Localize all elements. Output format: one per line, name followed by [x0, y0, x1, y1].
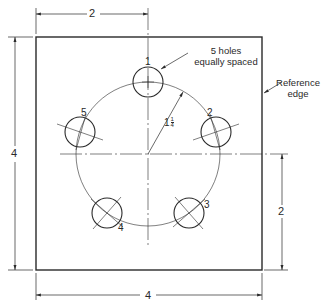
top-dimension-label: 2 — [89, 8, 95, 19]
right-dimension — [264, 154, 288, 270]
holes-note-line2: equally spaced — [186, 57, 266, 68]
radius-whole: 1 — [164, 117, 170, 128]
hole-2-label: 2 — [207, 108, 213, 118]
bolt-circle-radius-label: 114 — [164, 117, 174, 129]
reference-edge-line2: edge — [270, 89, 324, 100]
right-dimension-label: 2 — [278, 206, 284, 217]
holes-note-leader — [161, 53, 188, 69]
hole-1-label: 1 — [145, 57, 151, 67]
hole-3-label: 3 — [204, 200, 210, 210]
hole-3 — [173, 197, 205, 229]
hole-5-label: 5 — [81, 108, 87, 118]
holes-note: 5 holes equally spaced — [186, 46, 266, 68]
left-dimension-label: 4 — [11, 148, 17, 159]
hole-5 — [57, 114, 103, 150]
bottom-dimension-label: 4 — [145, 290, 151, 301]
drawing-canvas — [0, 0, 324, 302]
reference-edge-note: Reference edge — [270, 78, 324, 100]
hole-4-label: 4 — [118, 223, 124, 233]
radius-denominator: 4 — [171, 122, 174, 128]
hole-2 — [193, 114, 239, 150]
plate-outline — [36, 37, 262, 270]
